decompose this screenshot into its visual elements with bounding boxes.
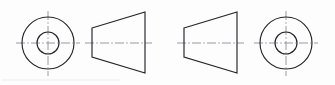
right-profile-view bbox=[177, 12, 244, 73]
right-profile-view-trapezoid bbox=[184, 12, 237, 73]
left-profile-view bbox=[85, 12, 152, 73]
technical-drawing-canvas bbox=[0, 0, 335, 85]
left-end-view bbox=[16, 11, 80, 76]
left-profile-view-trapezoid bbox=[92, 12, 145, 73]
right-end-view bbox=[254, 11, 318, 76]
drawing-svg bbox=[0, 0, 335, 85]
